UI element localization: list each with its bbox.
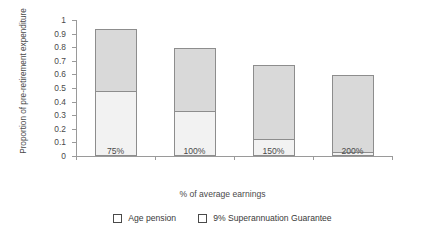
y-axis-tick: 0.5 [72, 88, 76, 89]
y-axis-line [76, 20, 77, 156]
x-axis-label: 100% [184, 146, 206, 156]
x-axis-tick [155, 156, 156, 160]
bar-segment[interactable] [253, 65, 295, 139]
x-axis-tick [313, 156, 314, 160]
bar-stack[interactable] [95, 20, 137, 156]
legend-swatch-super-guarantee [198, 214, 207, 223]
y-axis-tick-label: 0.2 [54, 124, 66, 134]
bar-stack[interactable] [332, 20, 374, 156]
y-axis-tick-label: 0.9 [54, 29, 66, 39]
y-axis-tick-label: 0.6 [54, 69, 66, 79]
plot-area: 10.90.80.70.60.50.40.30.20.10 [76, 20, 392, 156]
y-axis-tick: 0.6 [72, 74, 76, 75]
y-axis-tick: 1 [72, 20, 76, 21]
y-axis-tick: 0.9 [72, 34, 76, 35]
y-axis-tick-label: 0 [61, 151, 66, 161]
legend-label: 9% Superannuation Guarantee [213, 213, 332, 223]
bar-segment[interactable] [332, 75, 374, 154]
chart-legend: Age pension9% Superannuation Guarantee [0, 213, 445, 223]
x-axis-tick [76, 156, 77, 160]
x-axis-tick [234, 156, 235, 160]
y-axis-tick-label: 0.8 [54, 42, 66, 52]
y-axis-tick: 0.3 [72, 115, 76, 116]
x-axis-title: % of average earnings [0, 189, 445, 199]
bar-stack[interactable] [253, 20, 295, 156]
y-axis-tick: 0.7 [72, 61, 76, 62]
x-axis-tick [392, 156, 393, 160]
bar-stack[interactable] [174, 20, 216, 156]
y-axis-tick: 0.4 [72, 102, 76, 103]
x-axis-label: 150% [263, 146, 285, 156]
legend-label: Age pension [128, 213, 176, 223]
y-axis-tick-label: 0.5 [54, 83, 66, 93]
bar-segment[interactable] [174, 48, 216, 113]
legend-swatch-age-pension [113, 214, 122, 223]
legend-item[interactable]: 9% Superannuation Guarantee [198, 213, 332, 223]
y-axis-tick-label: 1 [61, 15, 66, 25]
y-axis-tick-label: 0.1 [54, 137, 66, 147]
bar-segment[interactable] [95, 29, 137, 93]
y-axis-tick: 0.2 [72, 129, 76, 130]
x-axis-label: 200% [342, 146, 364, 156]
legend-item[interactable]: Age pension [113, 213, 176, 223]
stacked-bar-chart: Proportion of pre-retirement expenditure… [0, 0, 445, 235]
y-axis-tick-label: 0.7 [54, 56, 66, 66]
y-axis-title: Proportion of pre-retirement expenditure [19, 1, 29, 161]
y-axis-tick: 0.8 [72, 47, 76, 48]
x-axis-label: 75% [107, 146, 124, 156]
y-axis-tick: 0.1 [72, 142, 76, 143]
y-axis-tick-label: 0.4 [54, 97, 66, 107]
y-axis-tick-label: 0.3 [54, 110, 66, 120]
